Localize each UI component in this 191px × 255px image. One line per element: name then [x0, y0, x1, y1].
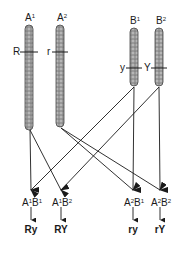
- phenotype-label-ry-2: RY: [54, 225, 68, 235]
- arrow-b2-to-a2b2: [159, 87, 160, 190]
- gamete-label-a2b2: A2B2: [151, 196, 171, 208]
- phenotype-label-ry-3: ry: [128, 225, 137, 235]
- arrow-a1-to-a1b1: [30, 130, 31, 190]
- arrow-a2-to-a2b2: [61, 128, 160, 190]
- segregation-diagram: [0, 0, 191, 255]
- chromosome-label-b1: B1: [130, 14, 140, 26]
- chromosome-a2: [56, 25, 64, 127]
- gamete-label-a1b1: A1B1: [22, 196, 42, 208]
- arrow-b1-to-a2b1: [133, 87, 134, 190]
- phenotype-label-ry-4: rY: [155, 225, 166, 235]
- allele-label-y-dominant: Y: [144, 63, 151, 73]
- allele-label-r-dominant: R: [13, 47, 20, 57]
- arrow-a1-to-a1b2: [30, 130, 61, 190]
- allele-label-r-recessive: r: [47, 47, 50, 57]
- chromosome-b2: [155, 28, 163, 86]
- chromosome-b1: [130, 28, 138, 86]
- chromosome-a1: [25, 25, 33, 130]
- chromosome-label-a2: A2: [57, 11, 67, 23]
- chromosome-label-a1: A1: [25, 11, 35, 23]
- arrow-a2-to-a2b1: [61, 128, 133, 190]
- gamete-label-a1b2: A1B2: [52, 196, 72, 208]
- arrow-b2-to-a1b2: [61, 87, 159, 190]
- gamete-label-a2b1: A2B1: [124, 196, 144, 208]
- arrow-b1-to-a1b1: [31, 87, 134, 190]
- allele-label-y-recessive: y: [120, 63, 125, 73]
- phenotype-label-ry-1: Ry: [25, 225, 38, 235]
- chromosome-label-b2: B2: [156, 14, 166, 26]
